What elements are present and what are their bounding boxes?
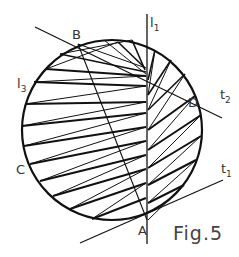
line-label-t1: t1 bbox=[221, 162, 232, 179]
t1-sub: 1 bbox=[226, 169, 232, 179]
geometry-figure bbox=[0, 0, 239, 257]
t2-sub: 2 bbox=[225, 95, 231, 105]
point-label-C: C bbox=[16, 163, 25, 176]
figure-caption: Fig.5 bbox=[173, 222, 223, 244]
left-chords bbox=[22, 40, 146, 219]
point-label-D: D bbox=[188, 96, 198, 109]
l1-sub: 1 bbox=[154, 23, 160, 33]
right-chords bbox=[148, 50, 201, 220]
line-label-l1: l1 bbox=[150, 16, 159, 33]
point-label-A: A bbox=[138, 224, 147, 237]
point-label-B: B bbox=[72, 28, 81, 41]
line-label-l3: l3 bbox=[17, 77, 26, 94]
line-label-t2: t2 bbox=[220, 88, 231, 105]
l3-sub: 3 bbox=[21, 84, 27, 94]
